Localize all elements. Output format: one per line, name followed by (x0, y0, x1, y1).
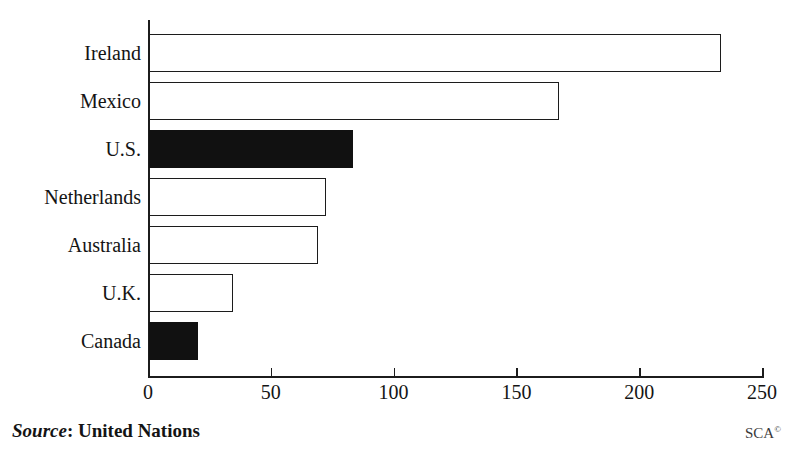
x-tick-label-50: 50 (261, 382, 281, 402)
bar-u-s (149, 130, 353, 168)
category-label-ireland: Ireland (0, 43, 141, 63)
chart-footer: Source: United Nations SCA© (0, 420, 793, 452)
plot-area (148, 20, 762, 378)
credit-text: SCA (745, 425, 774, 441)
x-tick-label-100: 100 (379, 382, 409, 402)
x-tick-200 (639, 368, 641, 378)
x-tick-0 (148, 368, 150, 378)
source-separator: : (67, 420, 78, 441)
x-tick-50 (271, 368, 273, 378)
x-tick-label-0: 0 (143, 382, 153, 402)
category-label-netherlands: Netherlands (0, 187, 141, 207)
x-tick-label-200: 200 (624, 382, 654, 402)
bar-mexico (149, 82, 559, 120)
category-axis-labels: IrelandMexicoU.S.NetherlandsAustraliaU.K… (0, 20, 141, 378)
bar-netherlands (149, 178, 326, 216)
x-tick-250 (762, 368, 764, 378)
bar-australia (149, 226, 318, 264)
x-tick-150 (516, 368, 518, 378)
category-label-u-s: U.S. (0, 139, 141, 159)
category-label-mexico: Mexico (0, 91, 141, 111)
category-label-canada: Canada (0, 331, 141, 351)
bar-u-k (149, 274, 233, 312)
x-axis-line (148, 376, 762, 378)
bar-ireland (149, 34, 721, 72)
category-label-australia: Australia (0, 235, 141, 255)
copyright-icon: © (774, 424, 781, 434)
x-tick-label-250: 250 (747, 382, 777, 402)
credit-mark: SCA© (745, 424, 781, 442)
chart-title-cropped (0, 0, 560, 4)
source-value: United Nations (78, 420, 200, 441)
x-tick-label-150: 150 (501, 382, 531, 402)
category-label-u-k: U.K. (0, 283, 141, 303)
source-label: Source (12, 420, 67, 441)
source-note: Source: United Nations (12, 420, 200, 442)
x-tick-100 (394, 368, 396, 378)
bar-canada (149, 322, 198, 360)
chart-page: IrelandMexicoU.S.NetherlandsAustraliaU.K… (0, 0, 793, 455)
